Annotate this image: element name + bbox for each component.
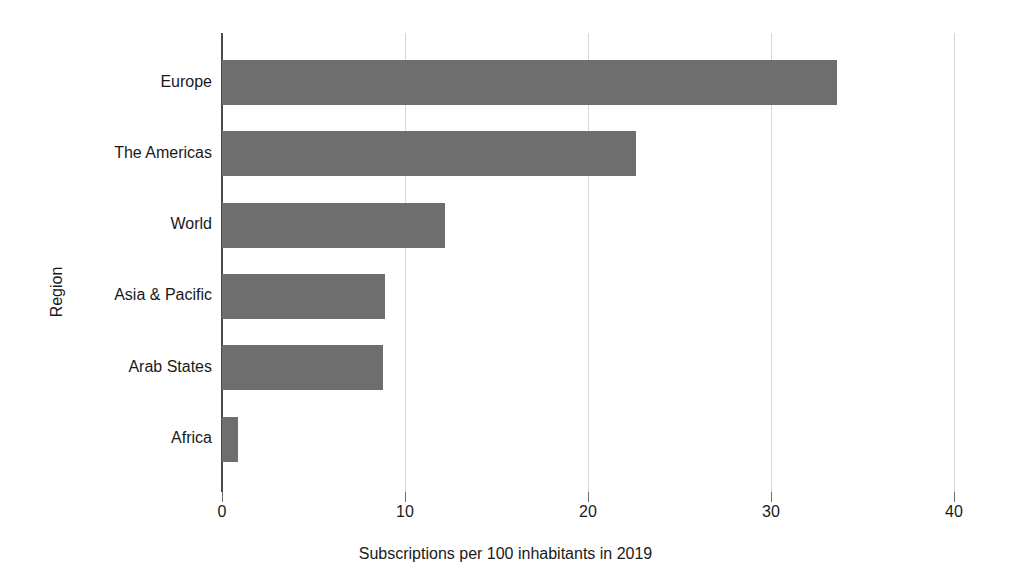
x-tick-mark: [222, 492, 223, 502]
y-tick-label: World: [12, 215, 212, 233]
y-tick-label: The Americas: [12, 144, 212, 162]
bar: [222, 131, 636, 176]
x-tick-mark: [588, 492, 589, 502]
x-tick-mark: [771, 492, 772, 502]
x-tick-label: 10: [365, 503, 445, 521]
bar: [222, 345, 383, 390]
y-tick-label: Europe: [12, 73, 212, 91]
y-axis-title: Region: [48, 267, 66, 318]
y-tick-label: Asia & Pacific: [12, 286, 212, 304]
y-tick-label: Africa: [12, 429, 212, 447]
bar: [222, 60, 837, 105]
x-tick-mark: [954, 492, 955, 502]
gridline-40: [954, 33, 955, 492]
x-tick-label: 30: [731, 503, 811, 521]
y-axis-title-wrapper: Region: [47, 262, 67, 322]
bar: [222, 417, 238, 462]
x-axis-title: Subscriptions per 100 inhabitants in 201…: [0, 545, 1011, 563]
y-tick-label: Arab States: [12, 358, 212, 376]
bar: [222, 274, 385, 319]
y-axis-tick-labels: EuropeThe AmericasWorldAsia & PacificAra…: [0, 0, 212, 588]
x-tick-label: 40: [914, 503, 994, 521]
bar-chart-figure: 010203040 EuropeThe AmericasWorldAsia & …: [0, 0, 1011, 588]
x-tick-mark: [405, 492, 406, 502]
bar: [222, 203, 445, 248]
x-tick-label: 20: [548, 503, 628, 521]
